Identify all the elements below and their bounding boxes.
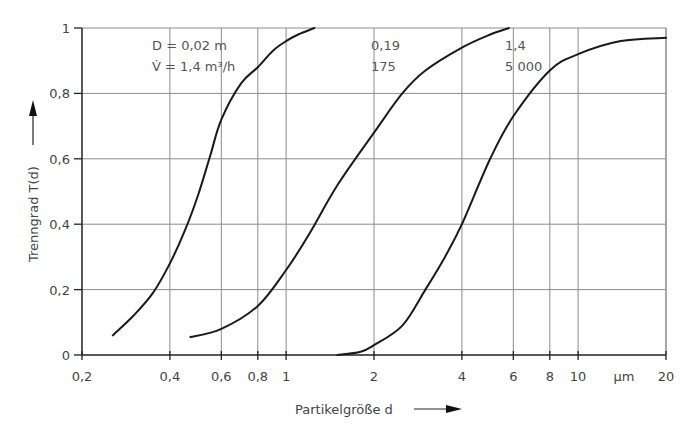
- y-tick-label: 0: [62, 348, 70, 363]
- x-tick-label: 0,4: [160, 369, 181, 384]
- series-annotation-3: 5 000: [505, 59, 542, 74]
- y-tick-label: 1: [62, 21, 70, 36]
- series-annotation-2: 0,19: [371, 38, 400, 53]
- series-annotation-2: 175: [371, 59, 396, 74]
- y-axis-title: Trenngrad T(d): [26, 166, 41, 263]
- x-axis-arrowhead-icon: [446, 405, 462, 413]
- curve-series-3: [338, 38, 667, 355]
- grid: [82, 28, 666, 355]
- y-tick-label: 0,6: [49, 152, 70, 167]
- axes: [74, 28, 666, 360]
- x-tick-label: 2: [370, 369, 378, 384]
- x-tick-label: 10: [570, 369, 587, 384]
- y-tick-label: 0,2: [49, 283, 70, 298]
- x-tick-label: 4: [458, 369, 466, 384]
- series-annotation-1: V̇ = 1,4 m³/h: [152, 59, 235, 74]
- series-annotation-3: 1,4: [505, 38, 526, 53]
- x-tick-label: 0,6: [211, 369, 232, 384]
- y-axis-arrowhead-icon: [29, 100, 37, 116]
- y-tick-label: 0,8: [49, 86, 70, 101]
- x-unit-label: µm: [614, 369, 635, 384]
- x-tick-label: 0,8: [247, 369, 268, 384]
- series-annotation-1: D = 0,02 m: [152, 38, 227, 53]
- x-axis-title: Partikelgröße d: [295, 402, 393, 417]
- x-tick-label: 1: [282, 369, 290, 384]
- y-tick-label: 0,4: [49, 217, 70, 232]
- curve-series-2: [190, 28, 509, 337]
- separation-efficiency-chart: 0,20,40,60,812468102000,20,40,60,81µmD =…: [0, 0, 698, 433]
- curves: [113, 28, 666, 355]
- labels: 0,20,40,60,812468102000,20,40,60,81µmD =…: [26, 21, 674, 417]
- x-tick-label: 6: [509, 369, 517, 384]
- x-tick-label: 0,2: [72, 369, 93, 384]
- x-tick-label: 8: [546, 369, 554, 384]
- x-tick-label: 20: [658, 369, 675, 384]
